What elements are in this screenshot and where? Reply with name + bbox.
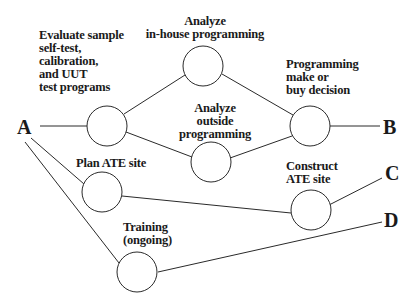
label-training: Training (ongoing)	[123, 221, 172, 247]
edge-plan-construct	[122, 196, 291, 213]
label-inhouse: Analyze in-house programming	[145, 15, 265, 41]
label-evaluate: Evaluate sample self-test, calibration, …	[39, 29, 124, 94]
node-outside-circle	[191, 142, 231, 182]
terminal-a: A	[17, 117, 31, 137]
label-outside: Analyze outside programming	[170, 102, 260, 141]
terminal-c: C	[385, 163, 399, 183]
node-makebuy-circle	[290, 106, 330, 146]
terminal-d: D	[384, 210, 398, 230]
node-training-circle	[117, 252, 157, 292]
label-plan: Plan ATE site	[76, 157, 146, 170]
node-construct-circle	[291, 190, 331, 230]
activity-network-diagram: A B C D Evaluate sample self-test, calib…	[0, 0, 412, 307]
label-construct: Construct ATE site	[286, 160, 338, 186]
node-evaluate-circle	[87, 106, 127, 146]
label-makebuy: Programming make or buy decision	[286, 58, 359, 97]
node-plan-circle	[82, 172, 122, 212]
node-inhouse-circle	[183, 46, 223, 86]
terminal-b: B	[383, 117, 396, 137]
edge-training-d	[158, 222, 382, 272]
